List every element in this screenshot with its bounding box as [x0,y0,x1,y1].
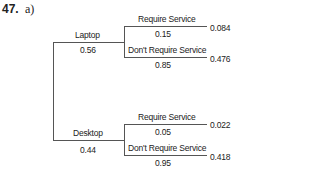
leaf-label-desktop-dont-require: Don't Require Service [128,143,206,153]
joint-prob-desktop-require: 0.022 [210,120,230,130]
leaf-prob-laptop-require: 0.15 [155,29,171,39]
branch-prob-desktop: 0.44 [80,145,96,155]
joint-prob-laptop-require: 0.084 [210,23,230,33]
leaf-prob-desktop-dont-require: 0.95 [155,158,171,168]
branch-label-laptop: Laptop [75,30,100,40]
joint-prob-desktop-dont-require: 0.418 [210,152,230,162]
joint-prob-laptop-dont-require: 0.476 [210,54,230,64]
leaf-label-laptop-require: Require Service [138,14,195,24]
leaf-prob-desktop-require: 0.05 [155,127,171,137]
branch-prob-laptop: 0.56 [80,45,96,55]
leaf-prob-laptop-dont-require: 0.85 [155,60,171,70]
leaf-label-desktop-require: Require Service [138,112,195,122]
branch-label-desktop: Desktop [73,128,103,138]
leaf-label-laptop-dont-require: Don't Require Service [128,45,206,55]
